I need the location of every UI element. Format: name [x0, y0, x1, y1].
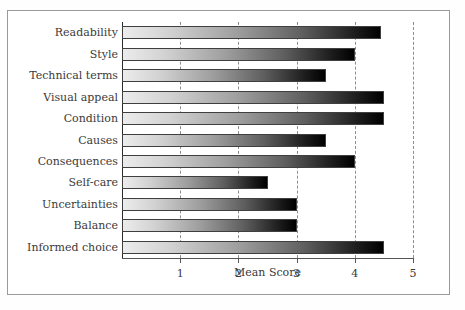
category-label: Causes: [78, 134, 118, 147]
category-label: Style: [90, 48, 118, 61]
category-axis-labels: ReadabilityStyleTechnical termsVisual ap…: [0, 22, 118, 258]
chart-figure: ReadabilityStyleTechnical termsVisual ap…: [0, 0, 465, 310]
category-label: Readability: [55, 26, 118, 39]
bar-row: [122, 134, 413, 147]
bar: [122, 198, 297, 211]
bar: [122, 134, 326, 147]
bar-row: [122, 198, 413, 211]
bar-row: [122, 176, 413, 189]
category-label: Visual appeal: [43, 91, 118, 104]
bar: [122, 91, 384, 104]
bar: [122, 241, 384, 254]
tick-mark-2: [238, 258, 239, 263]
bar-row: [122, 155, 413, 168]
bar: [122, 176, 268, 189]
category-label: Condition: [64, 112, 118, 125]
bar: [122, 69, 326, 82]
bar: [122, 155, 355, 168]
bar: [122, 26, 381, 39]
tick-mark-4: [355, 258, 356, 263]
bar-row: [122, 112, 413, 125]
bar: [122, 48, 355, 61]
x-axis-title: Mean Score: [122, 266, 413, 279]
plot-area: 12345: [122, 22, 413, 258]
tick-mark-1: [180, 258, 181, 263]
bar: [122, 219, 297, 232]
bar-row: [122, 91, 413, 104]
category-label: Balance: [74, 219, 118, 232]
x-axis-line: [122, 258, 413, 259]
bar-row: [122, 48, 413, 61]
category-label: Self-care: [69, 176, 118, 189]
category-label: Informed choice: [27, 241, 118, 254]
bar-row: [122, 219, 413, 232]
category-label: Technical terms: [29, 69, 118, 82]
gridline-5: [413, 22, 414, 258]
bar-row: [122, 241, 413, 254]
bar-row: [122, 69, 413, 82]
tick-mark-5: [413, 258, 414, 263]
bar: [122, 112, 384, 125]
category-label: Uncertainties: [42, 198, 118, 211]
tick-mark-3: [297, 258, 298, 263]
bar-row: [122, 26, 413, 39]
category-label: Consequences: [38, 155, 118, 168]
